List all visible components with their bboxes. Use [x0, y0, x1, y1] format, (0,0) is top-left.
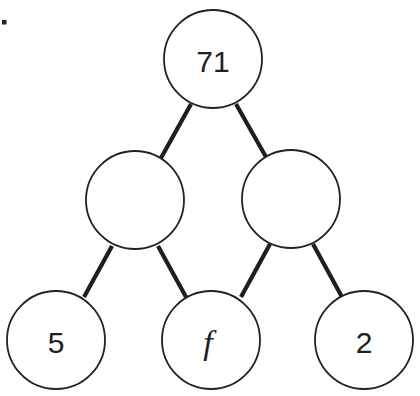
- node-mid-left: [86, 151, 184, 249]
- edge-top-midright: [236, 104, 266, 157]
- edge-midleft-bottomleft: [84, 246, 112, 297]
- bullet-marker: [2, 20, 7, 25]
- edge-midright-bottommiddle: [241, 244, 270, 297]
- edge-midright-bottomright: [313, 244, 342, 297]
- node-bottom-left-label: 5: [48, 326, 65, 359]
- number-bond-diagram: 71 5 f 2: [0, 0, 420, 396]
- node-bottom-middle: f: [162, 291, 260, 389]
- node-bottom-right-label: 2: [356, 326, 373, 359]
- node-top: 71: [164, 10, 262, 108]
- node-bottom-left: 5: [7, 291, 105, 389]
- edge-top-midleft: [161, 104, 191, 158]
- node-bottom-right: 2: [315, 291, 413, 389]
- node-mid-right: [242, 150, 340, 248]
- node-top-label: 71: [196, 45, 229, 78]
- edge-midleft-bottommiddle: [158, 246, 186, 297]
